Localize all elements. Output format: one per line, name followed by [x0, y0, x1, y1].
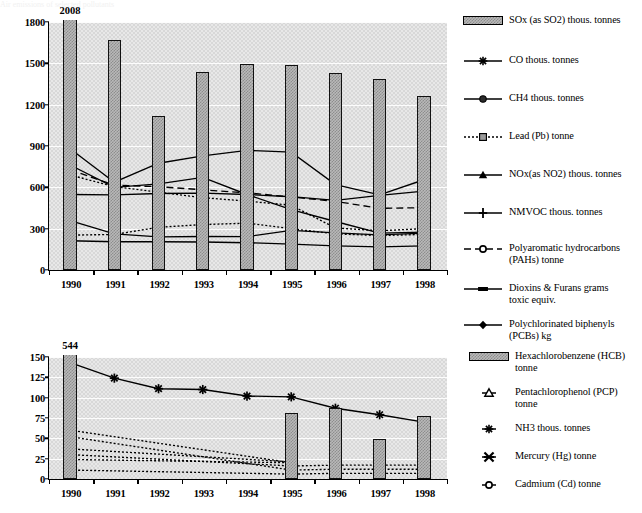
bar: [417, 96, 430, 270]
bar: [108, 40, 121, 270]
legend-swatch: [469, 352, 509, 361]
legend-item[interactable]: Dioxins & Furans grams toxic equiv.: [462, 282, 608, 305]
legend-key-circle-open-icon: [462, 243, 504, 255]
legend-item[interactable]: CO thous. tonnes: [462, 54, 579, 67]
series-markers: [66, 358, 429, 427]
legend-key-rect-filled-icon: [462, 283, 504, 295]
legend-key-star-icon: [462, 55, 504, 67]
legend-item[interactable]: CH4 thous. tonnes: [462, 92, 584, 105]
legend-label: Hexachlorobenzene (HCB) tonne: [515, 350, 625, 373]
legend-key-swatch-icon: [462, 15, 504, 27]
bottom-chart-legend: Hexachlorobenzene (HCB) tonnePentachloro…: [468, 350, 642, 510]
legend-key-triangle-icon: [462, 169, 504, 181]
legend-label: SOx (as SO2) thous. tonnes: [509, 14, 621, 26]
legend-item[interactable]: NOx(as NO2) thous. tonnes: [462, 168, 621, 181]
legend-label: Polyaromatic hydrocarbons (PAHs) tonne: [509, 242, 620, 265]
legend-label: CO thous. tonnes: [509, 54, 579, 66]
legend-key-x-star-icon: [468, 451, 510, 463]
bar: [417, 416, 430, 479]
series-line: [70, 430, 291, 463]
legend-label: NH3 thous. tonnes: [515, 422, 590, 434]
bar: [240, 64, 253, 270]
bar: [196, 72, 209, 270]
legend-key-star-icon: [468, 423, 510, 435]
legend-label: Pentachlorophenol (PCP) tonne: [515, 386, 618, 409]
legend-item[interactable]: Mercury (Hg) tonne: [468, 450, 596, 463]
legend-item[interactable]: Pentachlorophenol (PCP) tonne: [468, 386, 618, 409]
legend-label: NOx(as NO2) thous. tonnes: [509, 168, 621, 180]
bar: [373, 79, 386, 270]
legend-item[interactable]: SOx (as SO2) thous. tonnes: [462, 14, 621, 27]
bar-value-annotation: 2008: [60, 5, 81, 16]
legend-label: NMVOC thous. tonnes: [509, 206, 602, 218]
bar: [373, 439, 386, 479]
bar: [329, 408, 342, 479]
legend-item[interactable]: Polychlorinated biphenyls (PCBs) kg: [462, 318, 614, 341]
legend-item[interactable]: Hexachlorobenzene (HCB) tonne: [468, 350, 625, 373]
bar: [63, 355, 76, 479]
bar: [329, 73, 342, 270]
legend-key-diamond-icon: [462, 319, 504, 331]
legend-item[interactable]: NH3 thous. tonnes: [468, 422, 590, 435]
legend-label: Dioxins & Furans grams toxic equiv.: [509, 282, 608, 305]
legend-item[interactable]: Polyaromatic hydrocarbons (PAHs) tonne: [462, 242, 620, 265]
bar: [285, 413, 298, 479]
legend-key-square-hatch-icon: [462, 131, 504, 143]
bottom-chart-panel: 0255075100125150199019911992199319941995…: [0, 335, 460, 513]
legend-label: Polychlorinated biphenyls (PCBs) kg: [509, 318, 614, 341]
bar: [152, 116, 165, 270]
legend-label: Cadmium (Cd) tonne: [515, 478, 601, 490]
bar: [63, 20, 76, 270]
legend-key-plus-icon: [462, 207, 504, 219]
bar: [285, 65, 298, 270]
legend-item[interactable]: NMVOC thous. tonnes: [462, 206, 602, 219]
bar-value-annotation: 544: [62, 340, 78, 351]
legend-label: CH4 thous. tonnes: [509, 92, 584, 104]
legend-item[interactable]: Lead (Pb) tonne: [462, 130, 574, 143]
legend-key-swatch-icon: [468, 351, 510, 363]
legend-key-triangle-open-icon: [468, 387, 510, 399]
top-chart-panel: 0300600900120015001800199019911992199319…: [0, 0, 460, 305]
figure-root: Air emissions of selected pollutants 030…: [0, 0, 642, 513]
legend-key-circle-filled-icon: [462, 93, 504, 105]
legend-swatch: [463, 16, 503, 25]
top-chart-legend: SOx (as SO2) thous. tonnesCO thous. tonn…: [462, 14, 642, 324]
legend-label: Mercury (Hg) tonne: [515, 450, 596, 462]
legend-label: Lead (Pb) tonne: [509, 130, 574, 142]
legend-item[interactable]: Cadmium (Cd) tonne: [468, 478, 601, 491]
legend-key-circle-open-icon: [468, 479, 510, 491]
series-line: [70, 470, 424, 474]
